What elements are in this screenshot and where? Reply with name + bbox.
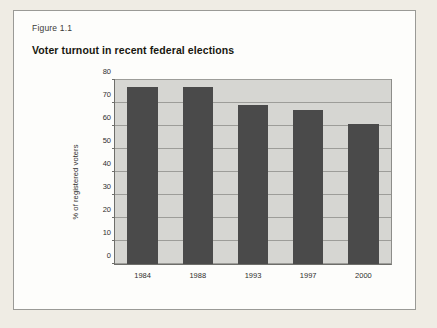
figure-page: Figure 1.1 Voter turnout in recent feder…: [0, 0, 437, 328]
bar-1984: [127, 87, 157, 264]
x-axis-tick-label: 2000: [355, 271, 372, 280]
y-axis-tick-label: 60: [103, 113, 111, 122]
bar-slot: 1988: [170, 80, 225, 264]
chart-plot-wrapper: % of registered voters 01020304050607080…: [92, 79, 392, 285]
y-axis-tick-label: 70: [103, 90, 111, 99]
x-axis-tick-label: 1988: [189, 271, 206, 280]
bar-slot: 2000: [336, 80, 391, 264]
x-axis-tick-label: 1993: [245, 271, 262, 280]
y-axis-tick-label: 40: [103, 159, 111, 168]
bar-1993: [238, 105, 268, 264]
y-axis-tick-label: 10: [103, 228, 111, 237]
y-axis-tick-label: 30: [103, 182, 111, 191]
bar-2000: [348, 124, 378, 264]
y-axis-tick-label: 0: [107, 251, 111, 260]
bar-1988: [183, 87, 213, 264]
bar-1997: [293, 110, 323, 264]
y-axis-tick-label: 80: [103, 67, 111, 76]
x-axis-tick-label: 1984: [134, 271, 151, 280]
figure-number-label: Figure 1.1: [32, 23, 72, 33]
y-axis-tick-label: 20: [103, 205, 111, 214]
plot-area: 01020304050607080 19841988199319972000: [114, 79, 392, 265]
bar-slot: 1997: [281, 80, 336, 264]
y-axis-title: % of registered voters: [68, 79, 82, 285]
bar-slot: 1993: [225, 80, 280, 264]
chart-title: Voter turnout in recent federal election…: [32, 44, 234, 56]
y-axis-tick-label: 50: [103, 136, 111, 145]
bars-group: 19841988199319972000: [115, 80, 391, 264]
figure-card: Figure 1.1 Voter turnout in recent feder…: [13, 10, 416, 310]
bar-slot: 1984: [115, 80, 170, 264]
x-axis-tick-label: 1997: [300, 271, 317, 280]
